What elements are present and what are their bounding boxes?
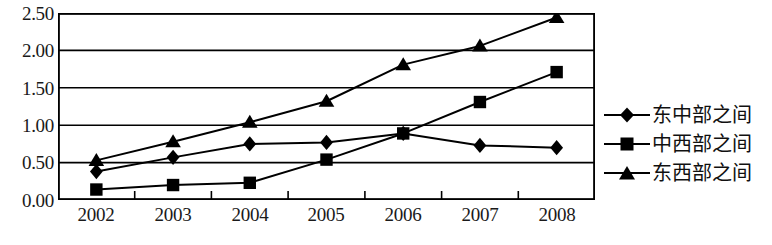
series-layer [89,13,565,196]
y-tick-label: 1.00 [2,116,54,135]
x-tick-label: 2008 [517,204,597,226]
legend-label: 东中部之间 [652,104,752,126]
data-point-triangle [319,94,335,107]
data-point-square [90,183,102,195]
x-tick-label: 2005 [286,204,366,226]
y-tick-label: 2.00 [2,41,54,60]
legend-item-east-central: 东中部之间 [604,101,752,129]
series-line [96,72,556,189]
chart-legend: 东中部之间 中西部之间 东西部之间 [604,98,772,198]
series-1 [90,126,563,179]
data-point-square [320,153,332,165]
data-point-square [397,127,409,139]
y-tick-label: 0.50 [2,153,54,172]
data-point-diamond [474,138,487,153]
series-2 [90,66,563,196]
legend-item-east-west: 东西部之间 [604,159,752,187]
data-point-diamond [550,140,563,155]
x-tick-label: 2004 [210,204,290,226]
y-tick-label: 2.50 [2,4,54,23]
triangle-marker-icon [604,162,650,184]
plot-svg [58,13,595,200]
legend-label: 东西部之间 [652,162,752,184]
x-tick-label: 2006 [363,204,443,226]
x-tick-label: 2003 [133,204,213,226]
data-point-diamond [243,136,256,151]
y-tick-label: 1.50 [2,79,54,98]
square-marker-icon [604,133,650,155]
data-point-square [167,179,179,191]
legend-label: 中西部之间 [652,133,752,155]
data-point-square [550,66,562,78]
x-axis-tick-labels: 2002 2003 2004 2005 2006 2007 2008 [58,204,595,234]
x-tick-label: 2007 [440,204,520,226]
y-tick-label: 0.00 [2,191,54,210]
data-point-diamond [320,135,333,150]
x-tick-label: 2002 [56,204,136,226]
y-axis-tick-labels: 2.50 2.00 1.50 1.00 0.50 0.00 [0,0,54,245]
data-point-diamond [90,164,103,179]
line-chart: 2.50 2.00 1.50 1.00 0.50 0.00 [0,0,772,245]
diamond-marker-icon [604,104,650,126]
plot-area [58,13,595,200]
data-point-square [244,177,256,189]
data-point-triangle [472,39,488,52]
data-point-square [474,96,486,108]
legend-item-central-west: 中西部之间 [604,130,752,158]
